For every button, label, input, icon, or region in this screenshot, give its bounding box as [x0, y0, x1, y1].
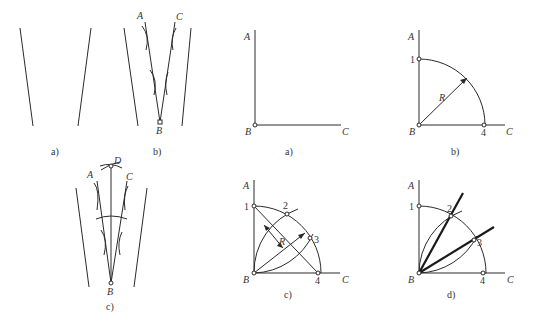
caption-right-a: a) [285, 146, 293, 158]
label-A: A [242, 180, 250, 191]
label-C: C [507, 274, 514, 285]
point-B [253, 123, 257, 127]
point-1 [252, 204, 256, 208]
label-A: A [136, 10, 144, 21]
label-1: 1 [244, 201, 249, 212]
left-panel-a: a) [20, 28, 91, 158]
point-1 [417, 204, 421, 208]
right-panel-a: A B C a) [243, 30, 349, 158]
label-B: B [107, 286, 113, 297]
label-1: 1 [409, 201, 414, 212]
label-3: 3 [477, 237, 482, 248]
left-panel-b: A C B b) [124, 10, 191, 158]
left-panel-c: D A C B c) [76, 155, 147, 313]
label-C: C [342, 274, 349, 285]
label-4: 4 [315, 275, 320, 286]
label-3: 3 [314, 234, 319, 245]
arc-mark [101, 230, 105, 255]
line-BA [97, 181, 111, 283]
label-2: 2 [283, 200, 288, 211]
arc-mark [119, 232, 122, 255]
line-right [78, 28, 91, 126]
trisector-line-B3 [419, 227, 494, 273]
trisector-line-B2 [419, 193, 463, 273]
point-3 [308, 236, 312, 240]
point-3 [472, 238, 476, 242]
label-B: B [243, 274, 249, 285]
arc-mark [172, 28, 176, 50]
point-1 [417, 57, 421, 61]
radius-arrow-icon [460, 78, 467, 84]
label-B: B [409, 126, 415, 137]
label-C: C [176, 11, 183, 22]
caption-left-b: b) [153, 146, 161, 158]
point-2 [285, 212, 289, 216]
label-B: B [245, 126, 251, 137]
caption-left-a: a) [51, 146, 59, 158]
arc-mark [124, 186, 128, 210]
label-D: D [113, 155, 122, 166]
label-4: 4 [480, 275, 485, 286]
label-2: 2 [447, 203, 452, 214]
label-R: R [278, 236, 285, 247]
caption-right-d: d) [447, 289, 455, 301]
outer-line-left [76, 188, 89, 287]
label-R: R [438, 92, 445, 103]
label-B: B [408, 274, 414, 285]
right-panel-c: A 1 2 3 R B 4 C c) [242, 180, 349, 301]
line-left [20, 28, 33, 126]
arc-from-4 [419, 211, 462, 273]
outer-line-right [134, 188, 147, 287]
point-2 [449, 214, 453, 218]
label-B: B [156, 125, 162, 136]
right-panel-d: A 1 2 3 B 4 C d) [407, 180, 514, 301]
label-C: C [506, 126, 513, 137]
label-A: A [243, 31, 251, 42]
label-A: A [86, 169, 94, 180]
point-B [158, 120, 162, 124]
geometry-figure: a) A C B b) D A C [0, 0, 533, 322]
arc-from-4 [254, 209, 298, 273]
point-B [417, 123, 421, 127]
label-A: A [407, 180, 415, 191]
label-A: A [407, 31, 415, 42]
arc-mark [166, 72, 168, 95]
point-D [109, 164, 113, 168]
label-C: C [342, 126, 349, 137]
right-panel-b: A 1 R B 4 C b) [407, 30, 513, 158]
point-B [252, 271, 256, 275]
caption-right-c: c) [284, 289, 292, 301]
point-B [417, 271, 421, 275]
caption-left-c: c) [106, 301, 114, 313]
label-4: 4 [481, 127, 486, 138]
label-1: 1 [410, 54, 415, 65]
caption-right-b: b) [451, 146, 459, 158]
outer-line-right [182, 28, 191, 126]
point-B [109, 281, 113, 285]
label-C: C [126, 171, 133, 182]
outer-line-left [124, 28, 138, 126]
